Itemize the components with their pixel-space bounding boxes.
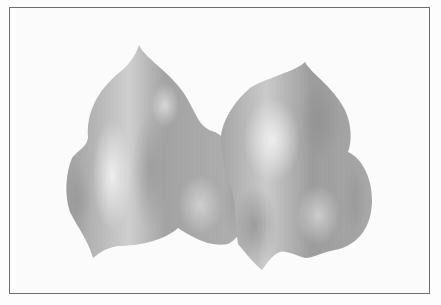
right-gourd — [221, 62, 372, 270]
left-gourd — [64, 45, 247, 258]
two-gourds-illustration — [0, 0, 441, 305]
